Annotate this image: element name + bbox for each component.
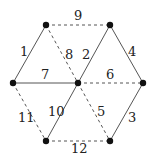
edge-label-11: 11 xyxy=(18,110,35,125)
edge-label-6: 6 xyxy=(106,67,114,82)
graph-diagram: 9 1 8 2 4 7 6 11 10 5 3 12 xyxy=(0,0,154,158)
edge-label-2: 2 xyxy=(82,47,90,62)
edge-label-12: 12 xyxy=(71,141,88,156)
edge-label-3: 3 xyxy=(128,110,136,125)
edge-label-4: 4 xyxy=(128,44,136,59)
edge-label-1: 1 xyxy=(20,44,28,59)
edge-label-10: 10 xyxy=(48,104,65,119)
edge-label-7: 7 xyxy=(41,67,49,82)
node-l xyxy=(10,80,16,86)
node-tr xyxy=(107,22,113,28)
node-bl xyxy=(43,138,49,144)
node-c xyxy=(75,80,81,86)
edge-label-5: 5 xyxy=(97,104,105,119)
edge-label-8: 8 xyxy=(65,47,73,62)
edge-3 xyxy=(110,83,143,141)
edge-label-9: 9 xyxy=(74,8,82,23)
node-tl xyxy=(43,22,49,28)
node-br xyxy=(107,138,113,144)
node-r xyxy=(140,80,146,86)
edge-4 xyxy=(110,25,143,83)
